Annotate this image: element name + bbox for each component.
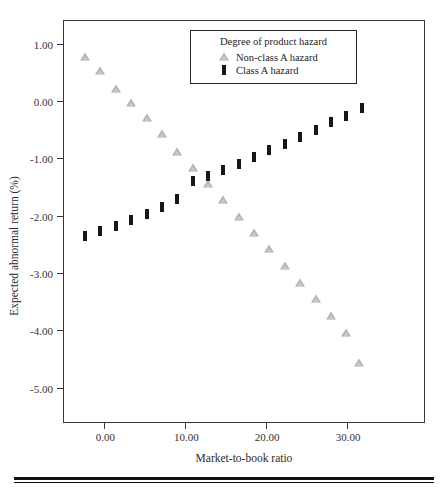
y-axis-tick-label: -3.00 [30,268,57,280]
x-axis-tick: 10.00 [185,422,186,429]
data-point-bar [298,132,302,142]
data-point-triangle [354,359,364,367]
data-point-triangle [157,130,167,138]
legend: Degree of product hazard Non-class A haz… [190,30,357,84]
data-point-bar [237,159,241,169]
data-point-triangle [264,245,274,253]
data-point-triangle [218,195,228,203]
y-axis-tick-label: 0.00 [34,96,57,108]
y-axis-tick: -5.00 [57,388,64,389]
y-axis-tick-label: -2.00 [30,211,57,223]
x-axis-tick-label: 20.00 [255,431,280,443]
data-point-triangle [249,229,259,237]
data-point-bar [360,103,364,113]
footer-rule-thick [14,477,434,480]
y-axis-tick-label: -5.00 [30,383,57,395]
data-point-bar [344,111,348,121]
data-point-triangle [341,329,351,337]
y-axis-label: Expected abnormal return (%) [8,176,20,316]
y-axis-tick-label: -1.00 [30,153,57,165]
data-point-bar [114,221,118,231]
data-point-triangle [80,52,90,60]
data-point-bar [98,226,102,236]
x-axis-tick-label: 10.00 [174,431,199,443]
data-point-bar [191,176,195,186]
data-point-bar [252,152,256,162]
data-point-bar [206,171,210,181]
data-point-triangle [326,312,336,320]
y-axis-tick: 0.00 [57,101,64,102]
bar-marker-icon [217,64,231,76]
data-point-triangle [188,163,198,171]
data-point-triangle [311,295,321,303]
y-axis-tick: -1.00 [57,158,64,159]
y-axis-tick: -3.00 [57,273,64,274]
data-point-bar [175,194,179,204]
y-axis-tick-label: 1.00 [34,39,57,51]
data-point-bar [221,165,225,175]
data-point-triangle [234,213,244,221]
legend-entry-class-a: Class A hazard [217,64,348,76]
y-axis-tick: -2.00 [57,216,64,217]
y-axis-tick: -4.00 [57,330,64,331]
data-point-bar [160,202,164,212]
data-point-bar [314,125,318,135]
data-point-triangle [142,114,152,122]
x-axis-tick: 0.00 [104,422,105,429]
y-axis-tick: 1.00 [57,44,64,45]
legend-entry-label: Class A hazard [236,65,298,76]
legend-entry-non-class-a: Non-class A hazard [217,51,348,63]
data-point-bar [129,215,133,225]
triangle-marker-icon [217,51,231,63]
legend-title: Degree of product hazard [199,36,348,47]
data-point-triangle [172,147,182,155]
data-point-bar [145,209,149,219]
data-point-triangle [280,262,290,270]
data-point-bar [329,117,333,127]
x-axis-tick: 20.00 [266,422,267,429]
data-point-bar [283,139,287,149]
data-point-triangle [95,66,105,74]
footer-rule-thin [14,482,434,483]
data-point-bar [267,145,271,155]
data-point-triangle [126,99,136,107]
x-axis-tick-label: 30.00 [336,431,361,443]
x-axis-label: Market-to-book ratio [63,452,425,464]
data-point-triangle [295,278,305,286]
figure-container: Expected abnormal return (%) 1.000.00-1.… [0,0,446,492]
data-point-bar [83,231,87,241]
data-point-triangle [111,85,121,93]
x-axis-tick: 30.00 [347,422,348,429]
x-axis-tick-label: 0.00 [96,431,115,443]
y-axis-tick-label: -4.00 [30,325,57,337]
legend-entry-label: Non-class A hazard [236,52,318,63]
